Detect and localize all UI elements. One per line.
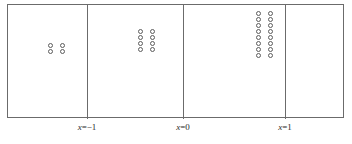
particle-circle	[268, 53, 273, 58]
particle-circle	[256, 11, 261, 16]
particle-circle	[60, 43, 65, 48]
particle-circle	[268, 29, 273, 34]
particle-circle	[256, 17, 261, 22]
label-x-minus-1: x=−1	[78, 122, 97, 133]
divider-x-0	[183, 4, 184, 119]
outer-rectangle	[7, 4, 344, 118]
particle-circle	[268, 23, 273, 28]
divider-x-1	[285, 4, 286, 119]
particle-cluster-cell-1	[44, 42, 68, 54]
particle-circle	[268, 35, 273, 40]
particle-circle	[138, 47, 143, 52]
particle-circle	[60, 49, 65, 54]
particle-cluster-cell-2	[134, 28, 158, 52]
particle-circle	[138, 35, 143, 40]
particle-circle	[150, 47, 155, 52]
particle-circle	[138, 41, 143, 46]
divider-x-minus-1	[87, 4, 88, 119]
particle-circle	[150, 35, 155, 40]
particle-circle	[48, 49, 53, 54]
particle-circle	[268, 47, 273, 52]
particle-circle	[48, 43, 53, 48]
particle-circle	[256, 53, 261, 58]
particle-circle	[268, 11, 273, 16]
concentration-gradient-figure: x=−1 x=0 x=1	[0, 0, 352, 144]
label-x-1: x=1	[278, 122, 292, 133]
particle-circle	[256, 35, 261, 40]
particle-circle	[150, 29, 155, 34]
particle-circle	[268, 41, 273, 46]
label-x-0: x=0	[176, 122, 190, 133]
particle-circle	[256, 29, 261, 34]
particle-cluster-cell-3	[252, 10, 276, 58]
particle-circle	[256, 23, 261, 28]
particle-circle	[256, 41, 261, 46]
particle-circle	[268, 17, 273, 22]
particle-circle	[138, 29, 143, 34]
particle-circle	[150, 41, 155, 46]
particle-circle	[256, 47, 261, 52]
